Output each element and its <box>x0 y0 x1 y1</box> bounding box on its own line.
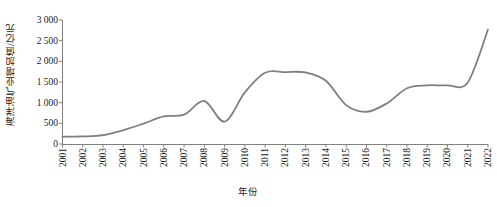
y-axis-ticks <box>59 20 63 144</box>
data-line-series-1 <box>63 30 489 137</box>
chart-container: 海洋油气业增加值/亿元 05001 0001 5002 0002 5003 00… <box>0 0 497 207</box>
plot-area <box>0 0 497 207</box>
axis-lines <box>63 20 489 145</box>
